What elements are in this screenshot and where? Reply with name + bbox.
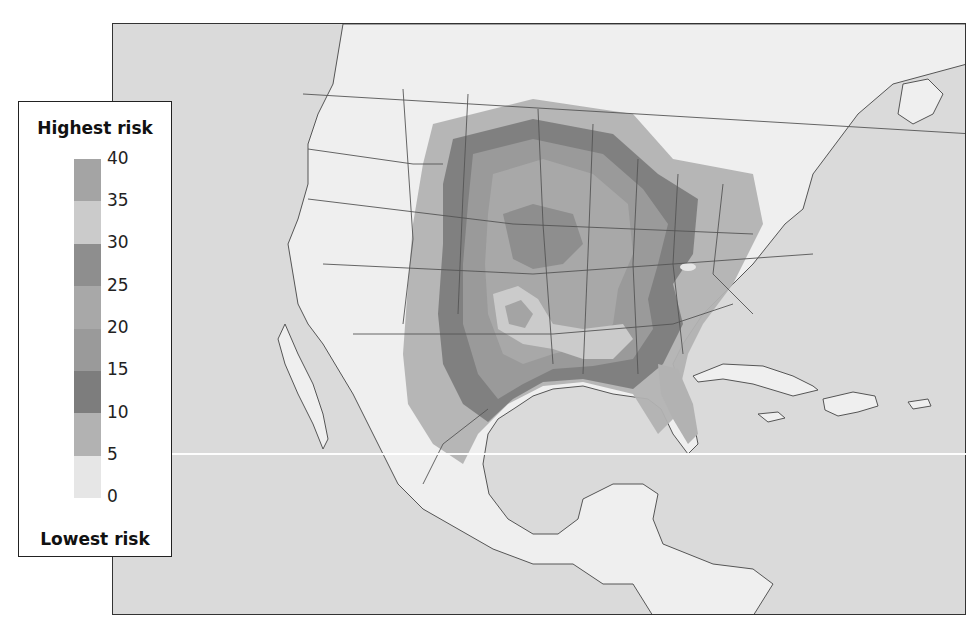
legend-swatch-0-5 (74, 456, 101, 498)
legend-tick: 10 (107, 403, 129, 421)
legend-swatch-25-30 (74, 244, 101, 286)
legend-tick: 35 (107, 191, 129, 209)
legend-tick: 15 (107, 360, 129, 378)
legend-color-bar (74, 159, 101, 498)
legend-title-lowest: Lowest risk (19, 529, 171, 549)
legend-swatch-15-20 (74, 329, 101, 371)
legend-swatch-30-35 (74, 201, 101, 243)
legend-swatch-5-10 (74, 413, 101, 455)
legend-swatch-10-15 (74, 371, 101, 413)
legend-title-highest: Highest risk (19, 118, 171, 138)
legend-tick: 20 (107, 318, 129, 336)
legend-tick: 5 (107, 445, 118, 463)
legend-swatch-20-25 (74, 286, 101, 328)
legend-tick: 30 (107, 233, 129, 251)
legend-tick: 25 (107, 276, 129, 294)
legend-tick: 40 (107, 149, 129, 167)
map-frame (112, 23, 966, 615)
legend-swatch-35-40 (74, 159, 101, 201)
legend-tick: 0 (107, 487, 118, 505)
band-0-5-wv (680, 263, 696, 271)
north-america-map (113, 24, 966, 615)
legend: Highest risk 40 35 30 25 20 15 10 5 0 Lo… (18, 101, 172, 557)
